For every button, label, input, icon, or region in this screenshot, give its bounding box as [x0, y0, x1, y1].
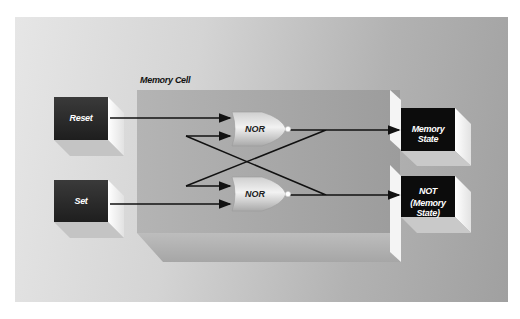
reset-label: Reset: [54, 113, 108, 123]
set-box: [54, 180, 124, 238]
not-label: NOT: [401, 186, 455, 196]
reset-box: [54, 97, 124, 156]
memory-state-label: Memory State: [401, 124, 455, 144]
inverter-bubble-icon: [285, 191, 290, 196]
nor-bottom-label: NOR: [245, 189, 265, 199]
set-label: Set: [54, 196, 108, 206]
diagram-canvas: Memory Cell Reset Set NOR NOR Memory Sta…: [0, 0, 520, 319]
nor-top-label: NOR: [245, 124, 265, 134]
not-memory-state-label: (Memory State): [399, 198, 457, 218]
diagram-graphics: [0, 0, 520, 319]
memory-cell-title: Memory Cell: [140, 75, 190, 85]
inverter-bubble-icon: [285, 126, 290, 131]
